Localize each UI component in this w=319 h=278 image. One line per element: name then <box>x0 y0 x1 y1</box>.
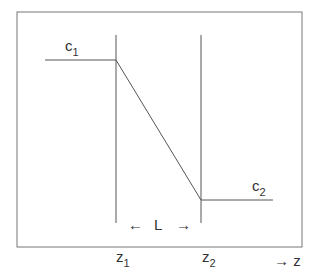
left-arrow: ← <box>128 216 143 233</box>
z1-label: z1 <box>116 248 130 269</box>
concentration-profile-diagram: c1 c2 ← L → z1 z2 → z <box>0 0 319 278</box>
c2-label: c2 <box>252 177 266 198</box>
right-arrow: → <box>176 216 191 233</box>
length-label: L <box>154 216 162 233</box>
c1-label: c1 <box>65 37 79 58</box>
z2-label: z2 <box>202 248 216 269</box>
z-axis-label: → z <box>274 252 301 269</box>
frame <box>17 12 302 247</box>
gradient-line <box>116 60 201 200</box>
